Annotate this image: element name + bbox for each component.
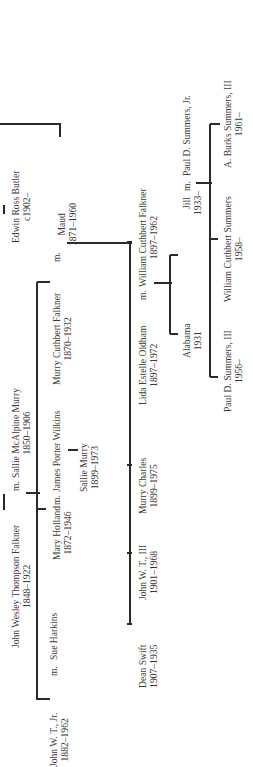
person-dates: 1899–1973 — [89, 443, 100, 492]
tree-connectors — [0, 0, 253, 767]
person-name: Murry Cuthbert Falkner — [51, 293, 62, 385]
marriage-marker: m. — [51, 252, 62, 262]
person-dates: 1958– — [233, 196, 244, 302]
person-name: Sue Harkins — [48, 613, 59, 660]
person-name: Murry Charles — [137, 458, 148, 514]
person-jwt-falkner: John Wesley Thompson Falkner 1848–1922 — [10, 525, 32, 648]
person-name: Maud — [56, 203, 67, 246]
person-name: A. Burks Summers, III — [222, 80, 233, 168]
person-dean-swift: Dean Swift 1907–1935 — [137, 645, 159, 688]
marriage-marker: m. — [10, 481, 21, 491]
person-name: William Cuthbert Falkner — [137, 188, 148, 287]
person-jwt-jr: John W. T., Jr. 1882–1962 — [48, 713, 70, 767]
person-name: William Cuthbert Summers — [222, 196, 233, 302]
person-william-cuthbert-summers: William Cuthbert Summers 1958– — [222, 196, 244, 302]
person-edwin-ross-butler: Edwin Ross Butler c1902– — [10, 171, 32, 244]
person-dates: 1933– — [192, 191, 203, 215]
person-dates: 1901–1968 — [148, 545, 159, 600]
person-name: Edwin Ross Butler — [10, 171, 21, 244]
person-paul-summers-iii: Paul D. Summers, III 1956– — [222, 330, 244, 412]
person-dates: 1872–1946 — [62, 506, 73, 560]
person-dates: 1882–1962 — [59, 713, 70, 767]
person-dates: 1956– — [233, 330, 244, 412]
person-william-cuthbert-falkner: William Cuthbert Falkner 1897–1962 — [137, 188, 159, 287]
person-name: Paul D. Summers, III — [222, 330, 233, 412]
person-alabama: Alabama 1931 — [181, 323, 203, 358]
person-dates: 1961– — [233, 80, 244, 168]
marriage-marker: m. — [137, 290, 148, 300]
person-jwt-iii: John W. T., III 1901–1968 — [137, 545, 159, 600]
person-lida-estelle-oldham: Lida Estelle Oldham 1897–1972 — [137, 326, 159, 405]
person-name: John W. T., Jr. — [48, 713, 59, 767]
person-name: Sallie McAlpine Murry — [10, 388, 21, 478]
person-name: Paul D. Summers, Jr. — [181, 95, 192, 176]
person-dates: 1899–1975 — [148, 458, 159, 514]
person-jill: Jill 1933– — [181, 191, 203, 215]
person-dates: 1848–1922 — [21, 525, 32, 648]
person-name: Mary Holland — [51, 506, 62, 560]
person-name: John Wesley Thompson Falkner — [10, 525, 21, 648]
person-name: Jill — [181, 191, 192, 215]
marriage-marker: m. — [181, 181, 192, 191]
person-mary-holland: Mary Holland 1872–1946 — [51, 506, 73, 560]
person-sallie-mcalpine-murry: Sallie McAlpine Murry 1850–1906 — [10, 388, 32, 478]
person-name: James Porter Wilkins — [51, 410, 62, 492]
person-james-porter-wilkins: James Porter Wilkins — [51, 410, 62, 492]
person-dates: 1850–1906 — [21, 388, 32, 478]
person-burks-summers-iii: A. Burks Summers, III 1961– — [222, 80, 244, 168]
person-dates: 1871–1960 — [67, 203, 78, 246]
marriage-marker: m. — [48, 666, 59, 676]
person-maud: Maud 1871–1960 — [56, 203, 78, 246]
person-name: Lida Estelle Oldham — [137, 326, 148, 405]
marriage-marker: m. — [51, 495, 62, 505]
person-name: Dean Swift — [137, 645, 148, 688]
person-name: Alabama — [181, 323, 192, 358]
person-name: Sallie Murry — [78, 443, 89, 492]
person-murry-cuthbert-falkner: Murry Cuthbert Falkner 1870–1932 — [51, 293, 73, 385]
person-dates: 1897–1962 — [148, 188, 159, 287]
person-sallie-murry: Sallie Murry 1899–1973 — [78, 443, 100, 492]
person-sue-harkins: Sue Harkins — [48, 613, 59, 660]
person-paul-summers-jr: Paul D. Summers, Jr. — [181, 95, 192, 176]
person-dates: 1897–1972 — [148, 326, 159, 405]
person-name: John W. T., III — [137, 545, 148, 600]
person-murry-charles: Murry Charles 1899–1975 — [137, 458, 159, 514]
person-dates: 1907–1935 — [148, 645, 159, 688]
person-dates: 1931 — [192, 323, 203, 358]
person-dates: 1870–1932 — [62, 293, 73, 385]
person-dates: c1902– — [21, 171, 32, 244]
